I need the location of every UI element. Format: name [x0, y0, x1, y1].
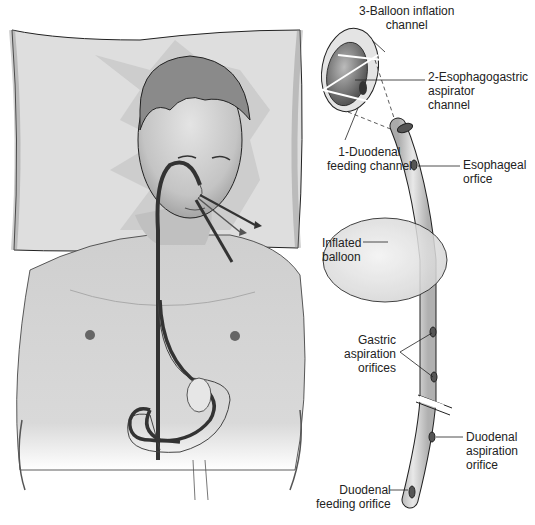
esophageal-orifice — [411, 160, 417, 170]
label-esophagogastric-aspirator-channel: 2-Esophagogastric aspirator channel — [428, 70, 528, 112]
tube-cross-section — [315, 24, 425, 140]
stomach-balloon — [187, 378, 211, 412]
label-duodenal-feeding-channel: 1-Duodenal feeding channel — [327, 145, 412, 173]
balloon-tube — [323, 122, 463, 500]
label-esophageal-orifice: Esophageal orfice — [463, 158, 526, 186]
label-gastric-aspiration-orifices: Gastric aspiration orifices — [344, 333, 396, 375]
label-inflated-balloon: Inflated balloon — [322, 236, 361, 264]
label-duodenal-feeding-orifice: Duodenal feeding orifice — [316, 483, 391, 511]
label-balloon-inflation-channel: 3-Balloon inflation channel — [359, 4, 454, 32]
label-duodenal-aspiration-orifice: Duodenal aspiration orifice — [466, 430, 518, 472]
right-nipple — [230, 331, 240, 341]
left-nipple — [85, 330, 95, 340]
